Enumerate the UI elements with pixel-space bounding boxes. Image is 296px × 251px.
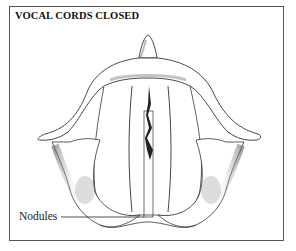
nodules-label: Nodules: [19, 210, 57, 222]
